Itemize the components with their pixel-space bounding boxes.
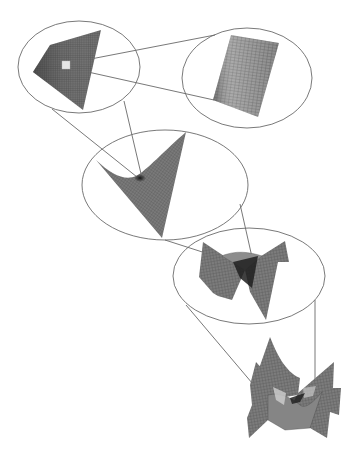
stage-2 — [182, 28, 312, 128]
stage-2-shading — [213, 35, 279, 117]
stage-1 — [18, 21, 140, 113]
connector-1-3-left — [52, 109, 137, 177]
connector-4-5-left — [186, 305, 258, 390]
diagram-svg — [0, 0, 361, 461]
stage-3-mesh-surface — [96, 132, 186, 238]
connector-1-2-lower — [70, 68, 214, 100]
stage-3-fold-shadow — [134, 174, 146, 182]
stage-3 — [82, 130, 248, 240]
stage-1-highlight-square — [62, 61, 70, 69]
connector-1-3-right — [124, 101, 142, 178]
stage-1-shading — [33, 30, 101, 110]
stage-5 — [247, 337, 341, 438]
zoom-sequence-diagram — [0, 0, 361, 461]
